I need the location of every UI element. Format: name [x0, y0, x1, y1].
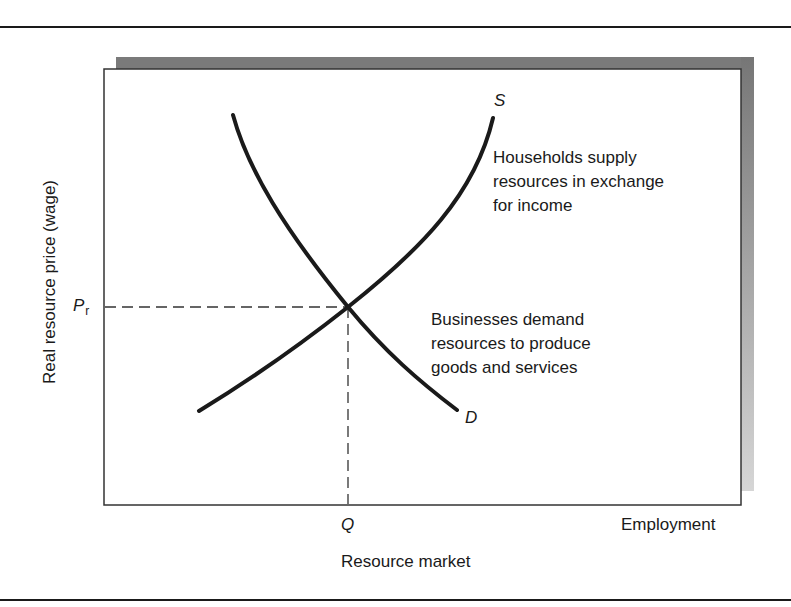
figure-caption: Resource market — [341, 553, 470, 570]
demand-label: D — [465, 409, 477, 426]
demand-annotation: Businesses demand resources to produce g… — [431, 308, 591, 380]
y-axis-label: Real resource price (wage) — [40, 180, 60, 384]
supply-annotation-line: for income — [493, 194, 664, 218]
price-symbol: P — [73, 296, 84, 315]
supply-annotation-line: resources in exchange — [493, 170, 664, 194]
equilibrium-price-label: Pr — [73, 297, 88, 314]
bottom-rule — [0, 599, 791, 601]
plot-frame — [104, 69, 741, 505]
supply-annotation-line: Households supply — [493, 146, 664, 170]
equilibrium-quantity-label: Q — [341, 516, 354, 533]
price-subscript: r — [85, 304, 89, 318]
x-axis-label: Employment — [621, 516, 715, 533]
supply-label: S — [494, 92, 505, 109]
supply-annotation: Households supply resources in exchange … — [493, 146, 664, 218]
frame-shadow-top — [116, 57, 754, 70]
demand-annotation-line: Businesses demand — [431, 308, 591, 332]
demand-annotation-line: resources to produce — [431, 332, 591, 356]
frame-shadow-right — [741, 57, 754, 491]
demand-annotation-line: goods and services — [431, 356, 591, 380]
